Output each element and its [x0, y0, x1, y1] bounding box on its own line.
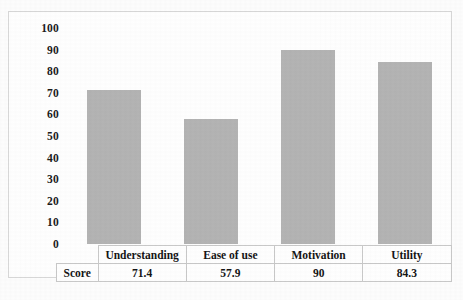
bar-slot: [162, 12, 259, 245]
y-axis-tick-30: 30: [17, 173, 59, 185]
y-axis-tick-60: 60: [17, 108, 59, 120]
table-value-cell: 90: [275, 264, 363, 282]
y-axis-tick-70: 70: [17, 87, 59, 99]
y-axis-tick-40: 40: [17, 152, 59, 164]
table-header-cell: Utility: [363, 246, 451, 264]
y-axis-tick-80: 80: [17, 65, 59, 77]
table-corner-cell: [57, 246, 99, 264]
y-axis-tick-90: 90: [17, 44, 59, 56]
plot-area: 1009080706050403020100: [9, 12, 453, 245]
table-header-cell: Understanding: [98, 246, 186, 264]
bar-motivation: [281, 50, 335, 244]
table-value-cell: 84.3: [363, 264, 451, 282]
data-table: UnderstandingEase of useMotivationUtilit…: [56, 245, 452, 282]
table-header-cell: Ease of use: [186, 246, 274, 264]
figure-frame: 1009080706050403020100 UnderstandingEase…: [8, 11, 452, 278]
table-header-cell: Motivation: [275, 246, 363, 264]
y-axis-tick-20: 20: [17, 195, 59, 207]
y-axis-tick-100: 100: [17, 22, 59, 34]
y-axis: 1009080706050403020100: [17, 12, 59, 245]
table-row-scores: Score 71.457.99084.3: [57, 264, 452, 282]
table-row-headers: UnderstandingEase of useMotivationUtilit…: [57, 246, 452, 264]
bars-layer: [65, 12, 453, 245]
bar-understanding: [87, 90, 141, 244]
bar-ease-of-use: [184, 119, 238, 244]
bar-slot: [356, 12, 453, 245]
y-axis-tick-50: 50: [17, 130, 59, 142]
bar-slot: [65, 12, 162, 245]
table-value-cell: 57.9: [186, 264, 274, 282]
y-axis-tick-10: 10: [17, 216, 59, 228]
table-row-label: Score: [57, 264, 99, 282]
bar-utility: [378, 62, 432, 244]
y-axis-tick-0: 0: [17, 238, 59, 250]
bar-slot: [259, 12, 356, 245]
table-value-cell: 71.4: [98, 264, 186, 282]
